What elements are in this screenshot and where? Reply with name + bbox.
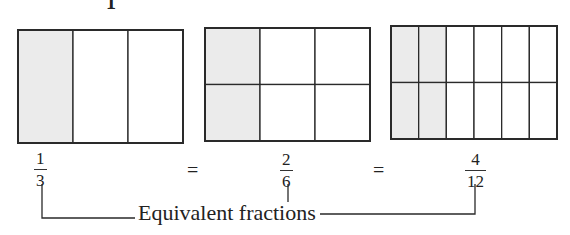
- unshaded-cell: [474, 83, 502, 140]
- unshaded-cell: [128, 30, 183, 143]
- denominator: 3: [34, 172, 47, 189]
- unshaded-cell: [502, 83, 530, 140]
- shaded-cell: [205, 85, 260, 142]
- shaded-cell: [205, 28, 260, 85]
- unshaded-cell: [529, 83, 557, 140]
- shaded-cell: [419, 26, 447, 83]
- unshaded-cell: [474, 26, 502, 83]
- equivalent-fractions-label: Equivalent fractions: [136, 202, 318, 224]
- unshaded-cell: [315, 28, 370, 85]
- fraction-bar-line: [465, 170, 486, 171]
- bracket-left: [42, 184, 135, 218]
- unshaded-cell: [315, 85, 370, 142]
- unshaded-cell: [446, 83, 474, 140]
- shaded-cell: [18, 30, 73, 143]
- unshaded-cell: [529, 26, 557, 83]
- unshaded-cell: [502, 26, 530, 83]
- fraction-bar-line: [280, 170, 293, 171]
- numerator: 1: [34, 150, 47, 167]
- equals-sign-2: =: [373, 160, 384, 180]
- fraction-bar-four-twelfths: [391, 26, 557, 139]
- fraction-four-twelfths: 4 12: [465, 151, 486, 190]
- fraction-one-third: 1 3: [34, 150, 47, 189]
- shaded-cell: [391, 26, 419, 83]
- denominator: 6: [280, 173, 293, 190]
- unshaded-cell: [260, 85, 315, 142]
- numerator: 4: [465, 151, 486, 168]
- unshaded-cell: [260, 28, 315, 85]
- shaded-cell: [419, 83, 447, 140]
- denominator: 12: [465, 173, 486, 190]
- fraction-bar-two-sixths: [205, 28, 370, 141]
- equals-sign-1: =: [187, 160, 198, 180]
- fraction-bar-one-third: [18, 30, 183, 143]
- unshaded-cell: [446, 26, 474, 83]
- bracket-right: [320, 184, 475, 214]
- shaded-cell: [391, 83, 419, 140]
- fraction-two-sixths: 2 6: [280, 151, 293, 190]
- fraction-bar-line: [34, 169, 47, 170]
- numerator: 2: [280, 151, 293, 168]
- unshaded-cell: [73, 30, 128, 143]
